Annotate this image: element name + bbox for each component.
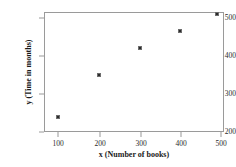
x-axis-tick-mark	[221, 132, 222, 137]
x-axis-tick-label: 300	[135, 140, 146, 148]
x-axis-tick-mark	[58, 132, 59, 137]
scatter-plot-figure: y (Time in months) 500 400 300 200 100 2…	[0, 0, 236, 167]
x-axis-label: x (Number of books)	[44, 150, 224, 159]
x-axis-tick-mark	[100, 132, 101, 137]
x-axis-tick-mark	[141, 132, 142, 137]
y-axis-label: y (Time in months)	[24, 40, 33, 105]
plot-area	[44, 12, 224, 132]
x-axis-tick-mark	[181, 132, 182, 137]
x-axis-tick-label: 100	[52, 140, 63, 148]
x-axis-tick-label: 500	[215, 140, 226, 148]
y-axis-label-container: y (Time in months)	[0, 12, 14, 132]
x-axis-tick-label: 400	[175, 140, 186, 148]
x-axis-tick-label: 200	[94, 140, 105, 148]
